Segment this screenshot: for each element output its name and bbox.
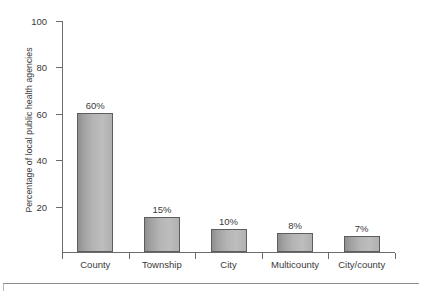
y-axis-tick-label: 100 <box>31 16 47 27</box>
plot-area: 20406080100 60%County15%Township10%City8… <box>62 21 395 253</box>
y-axis-tick: 80 <box>56 67 62 68</box>
bar-value-label: 15% <box>152 204 171 215</box>
bar-chart-figure: Percentage of local public health agenci… <box>0 0 422 296</box>
page-separator-tick <box>3 284 4 291</box>
y-axis-tick-label: 20 <box>36 201 47 212</box>
bar: 8% <box>277 233 313 252</box>
y-axis-tick-label: 40 <box>36 155 47 166</box>
bar-value-label: 7% <box>355 223 369 234</box>
x-axis-category-label: City <box>220 259 236 270</box>
bar-value-label: 8% <box>288 220 302 231</box>
bar: 7% <box>344 236 380 252</box>
y-axis-tick: 20 <box>56 207 62 208</box>
bar: 15% <box>144 217 180 252</box>
x-axis-category-label: City/county <box>338 259 385 270</box>
x-axis-tick <box>129 253 130 259</box>
x-axis-line <box>62 252 395 253</box>
x-axis-tick <box>195 253 196 259</box>
y-axis-tick: 60 <box>56 114 62 115</box>
x-axis-category-label: County <box>80 259 110 270</box>
bar: 60% <box>77 113 113 252</box>
y-axis-tick: 40 <box>56 160 62 161</box>
y-axis-tick: 100 <box>56 21 62 22</box>
bar-value-label: 60% <box>86 100 105 111</box>
bar: 10% <box>211 229 247 252</box>
x-axis-tick <box>328 253 329 259</box>
x-axis-tick <box>262 253 263 259</box>
x-axis-tick <box>62 253 63 259</box>
bar-value-label: 10% <box>219 216 238 227</box>
y-axis-tick-label: 60 <box>36 108 47 119</box>
y-axis-tick-label: 80 <box>36 62 47 73</box>
y-axis-title: Percentage of local public health agenci… <box>24 28 34 233</box>
page-separator-rule <box>3 283 419 284</box>
x-axis-tick <box>395 253 396 259</box>
x-axis-category-label: Multicounty <box>271 259 319 270</box>
x-axis-category-label: Township <box>142 259 182 270</box>
y-axis-line <box>62 21 63 253</box>
